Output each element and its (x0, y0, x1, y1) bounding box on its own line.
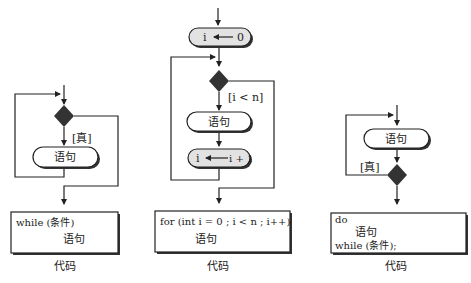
statement-label: 语句 (208, 116, 230, 129)
code-line: while (条件); (335, 239, 397, 251)
do-while-loop-diagram: 语句 [真] do 语句 while (条件); 代码 (331, 105, 468, 273)
statement-label: 语句 (385, 133, 407, 146)
update-var: i (196, 152, 200, 165)
caption: 代码 (385, 260, 407, 273)
while-loop-diagram: [真] 语句 while (条件) 语句 代码 (11, 85, 120, 273)
condition-label: [i < n] (228, 91, 263, 104)
condition-label: [真] (360, 160, 380, 174)
decision-diamond (54, 105, 74, 127)
code-line: while (条件) (16, 216, 74, 228)
init-value: 0 (237, 31, 244, 44)
init-var: i (203, 31, 207, 44)
code-line: 语句 (195, 233, 217, 246)
code-line: for (int i = 0 ; i < n ; i++) (160, 216, 290, 227)
condition-label: [真] (72, 131, 92, 145)
update-value: i + 1 (229, 153, 253, 164)
caption: 代码 (54, 260, 76, 273)
code-line: do (335, 214, 347, 225)
decision-diamond (209, 70, 229, 92)
decision-diamond (387, 164, 407, 186)
loop-flowcharts: [真] 语句 while (条件) 语句 代码 i 0 [i < n] 语句 (0, 0, 471, 283)
code-line: 语句 (355, 226, 377, 239)
caption: 代码 (207, 260, 229, 273)
statement-label: 语句 (54, 151, 76, 164)
for-loop-diagram: i 0 [i < n] 语句 i i + 1 for (int i = 0 ; … (155, 8, 292, 273)
code-line: 语句 (63, 233, 85, 246)
